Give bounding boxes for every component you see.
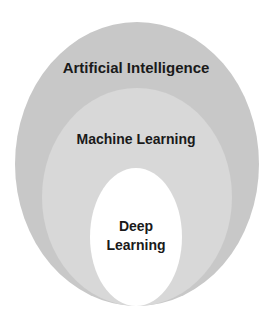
nested-ellipse-diagram: Artificial Intelligence Machine Learning…: [0, 0, 275, 321]
dl-label-line1: Deep: [119, 218, 153, 234]
ml-label: Machine Learning: [76, 131, 195, 147]
ai-label: Artificial Intelligence: [63, 59, 210, 76]
dl-label-line2: Learning: [106, 237, 165, 253]
